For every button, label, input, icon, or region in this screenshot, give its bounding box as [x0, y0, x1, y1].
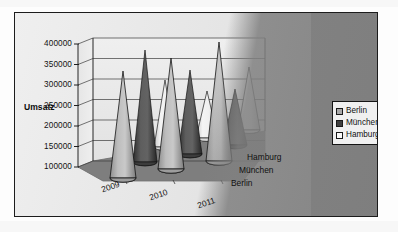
legend-label-berlin: Berlin	[346, 107, 367, 115]
scan-artifact-bottom	[0, 221, 398, 232]
page-root: Umsatz 400000 350000 300000 250000 20000…	[0, 0, 398, 232]
chart-frame: Umsatz 400000 350000 300000 250000 20000…	[14, 12, 378, 217]
legend-item-muenchen[interactable]: München	[336, 117, 378, 129]
chart-legend: Berlin München Hamburg	[332, 101, 378, 145]
y-tick-label-350000: 350000	[25, 60, 72, 69]
legend-swatch-hamburg	[336, 132, 343, 139]
legend-label-hamburg: Hamburg	[346, 131, 378, 139]
z-tick-label-muenchen: München	[239, 165, 273, 175]
legend-swatch-muenchen	[336, 120, 343, 127]
y-tick-label-150000: 150000	[25, 142, 72, 151]
z-tick-label-hamburg: Hamburg	[247, 152, 281, 162]
legend-swatch-berlin	[336, 108, 343, 115]
y-tick-label-100000: 100000	[25, 162, 72, 171]
y-tick-label-250000: 250000	[25, 101, 72, 110]
legend-item-berlin[interactable]: Berlin	[336, 105, 378, 117]
legend-label-muenchen: München	[346, 119, 378, 127]
z-tick-label-berlin: Berlin	[231, 178, 252, 188]
scan-artifact-top	[0, 0, 398, 7]
legend-item-hamburg[interactable]: Hamburg	[336, 129, 378, 141]
y-tick-label-300000: 300000	[25, 80, 72, 89]
y-tick-label-200000: 200000	[25, 121, 72, 130]
y-tick-label-400000: 400000	[25, 39, 72, 48]
